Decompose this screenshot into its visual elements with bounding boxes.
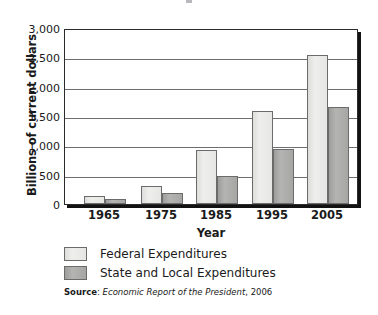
source-label: Source xyxy=(64,287,97,297)
y-tick-label: 3,000 xyxy=(14,23,60,36)
legend-item: State and Local Expenditures xyxy=(64,263,364,282)
bar-federal xyxy=(141,186,162,204)
x-tick-label: 1965 xyxy=(88,208,120,222)
bar-federal xyxy=(84,196,105,204)
y-tick-label: 2,000 xyxy=(14,81,60,94)
x-tick-label: 1975 xyxy=(145,208,177,222)
legend-swatch-state-local xyxy=(64,266,87,280)
legend-item: Federal Expenditures xyxy=(64,244,364,263)
cropped-title-sliver xyxy=(186,0,192,3)
y-tick-label: 1,000 xyxy=(14,140,60,153)
x-tick-label: 2005 xyxy=(311,208,343,222)
bar-state-local xyxy=(328,107,349,204)
source-publication: Economic Report of the President xyxy=(103,287,246,297)
plot-area xyxy=(64,29,358,205)
bar-state-local xyxy=(273,149,294,204)
source-note: Source: Economic Report of the President… xyxy=(64,287,272,297)
chart-figure: Billions of current dollars 05001,0001,5… xyxy=(0,0,378,315)
source-year: , 2006 xyxy=(245,287,272,297)
x-axis-tick-labels: 19651975198519952005 xyxy=(64,208,358,224)
legend-label: Federal Expenditures xyxy=(100,247,227,261)
y-tick-label: 0 xyxy=(14,199,60,212)
legend-swatch-federal xyxy=(64,247,87,261)
bar-state-local xyxy=(162,193,183,204)
bar-state-local xyxy=(217,176,238,204)
y-tick-label: 1,500 xyxy=(14,111,60,124)
x-tick-label: 1985 xyxy=(200,208,232,222)
y-tick-label: 500 xyxy=(14,169,60,182)
bar-state-local xyxy=(105,199,126,204)
x-axis-title: Year xyxy=(64,226,358,240)
legend-label: State and Local Expenditures xyxy=(100,266,276,280)
bar-federal xyxy=(307,55,328,204)
bar-federal xyxy=(252,111,273,204)
bar-series-container xyxy=(65,30,357,204)
y-axis-tick-labels: 05001,0001,5002,0002,5003,000 xyxy=(14,25,60,205)
legend: Federal ExpendituresState and Local Expe… xyxy=(64,244,364,282)
bar-federal xyxy=(196,150,217,204)
y-tick-label: 2,500 xyxy=(14,52,60,65)
x-tick-label: 1995 xyxy=(256,208,288,222)
plot-frame xyxy=(64,29,358,205)
